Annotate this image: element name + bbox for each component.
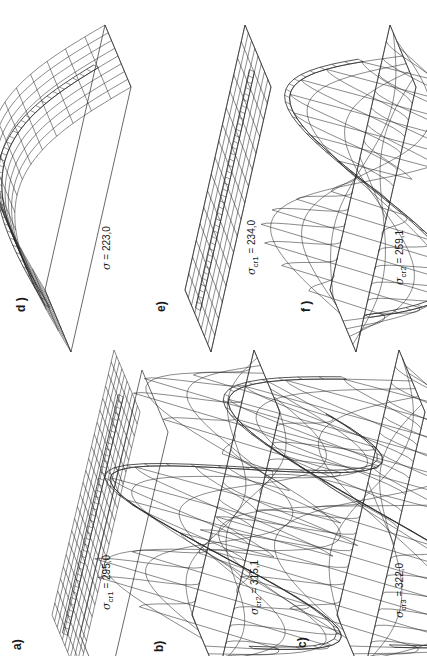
stiffener-hatch xyxy=(79,561,84,563)
stiffener-hatch xyxy=(233,141,238,143)
stiffener-hatch xyxy=(87,69,92,71)
stiffener-hatch xyxy=(41,101,46,103)
stiffener-hatch xyxy=(208,254,213,256)
stiffener-hatch xyxy=(204,272,209,274)
mesh-line-transverse xyxy=(290,91,427,153)
stiffener-hatch xyxy=(271,583,276,585)
mode-shape-panel-f: f ) σcr2 = 259,1 xyxy=(285,0,427,320)
stiffener-hatch xyxy=(21,120,26,122)
wireframe-mesh xyxy=(0,320,140,656)
sigma-subscript: cr2 xyxy=(399,266,408,277)
stiffener-hatch xyxy=(201,284,206,286)
sigma-symbol: σ xyxy=(245,267,258,275)
mesh-line-transverse xyxy=(326,58,427,120)
stiffener-hatch xyxy=(229,159,234,161)
stiffener-hatch xyxy=(417,305,422,307)
stiffener-hatch xyxy=(320,67,325,69)
stiffener-hatch xyxy=(342,491,347,493)
stiffener-hatch xyxy=(195,308,200,310)
stiffener-hatch xyxy=(248,76,253,78)
stiffener-hatch xyxy=(107,442,112,444)
stiffener-hatch xyxy=(332,64,337,66)
stiffener-hatch xyxy=(213,231,218,233)
stiffener-base xyxy=(2,67,99,307)
sigma-subscript: cr2 xyxy=(254,596,263,607)
mesh-line-transverse xyxy=(337,615,363,656)
stiffener-hatch xyxy=(240,111,245,113)
stiffener-hatch xyxy=(294,79,299,81)
stiffener-hatch xyxy=(289,84,294,86)
stiffener-hatch xyxy=(241,105,246,107)
stress-label: σcr3 = 322,0 xyxy=(393,563,408,618)
stiffener-hatch xyxy=(17,126,22,128)
mode-shape-panel-a: a) σcr1 = 295,0 xyxy=(0,320,140,656)
sigma-subscript: cr1 xyxy=(106,591,115,602)
stiffener-hatch xyxy=(244,93,249,96)
stiffener-hatch xyxy=(222,189,227,191)
mesh-line-longitudinal xyxy=(302,41,427,306)
stiffener-hatch xyxy=(66,83,71,85)
stress-label: σcr2 = 315,1 xyxy=(248,560,263,615)
stress-value: = 234,0 xyxy=(246,220,257,256)
wireframe-mesh xyxy=(140,0,285,320)
stiffener-hatch xyxy=(286,89,291,91)
panel-letter: f ) xyxy=(299,301,313,312)
stiffener-hatch xyxy=(220,201,225,203)
stiffener-hatch xyxy=(10,136,15,138)
mesh-line-transverse xyxy=(270,446,427,511)
stiffener-hatch xyxy=(222,556,227,558)
mesh-line-longitudinal xyxy=(0,25,105,290)
stiffener-hatch xyxy=(202,278,207,280)
stiffener-hatch xyxy=(206,260,211,262)
stiffener-hatch xyxy=(408,529,413,531)
mesh-line-transverse xyxy=(301,75,427,137)
stiffener-top xyxy=(0,65,94,305)
stiffener-hatch xyxy=(236,129,241,131)
sigma-symbol: σ xyxy=(100,262,113,270)
stiffener-hatch xyxy=(212,236,217,238)
stress-label: σcr1 = 295,0 xyxy=(100,555,115,610)
stress-value: = 223,0 xyxy=(101,226,112,262)
panel-letter: c) xyxy=(295,637,309,648)
stiffener-hatch xyxy=(2,153,7,155)
stiffener-hatch xyxy=(64,627,69,629)
mode-shape-panel-c: c) σcr3 = 322,0 xyxy=(285,320,427,656)
stiffener-hatch xyxy=(227,171,232,173)
stiffener-hatch xyxy=(102,466,107,468)
stiffener-hatch xyxy=(237,123,242,125)
mode-shape-panel-b: b) σcr2 = 315,1 xyxy=(140,320,285,656)
stress-label: σ = 223,0 xyxy=(100,226,115,270)
mesh-line-longitudinal xyxy=(360,404,422,656)
stiffener-hatch xyxy=(30,110,35,112)
stiffener-hatch xyxy=(36,106,41,108)
stiffener-hatch xyxy=(345,62,350,64)
stiffener-hatch xyxy=(285,95,290,97)
sigma-symbol: σ xyxy=(393,610,406,618)
wireframe-mesh xyxy=(140,320,285,656)
stiffener-hatch xyxy=(358,59,363,61)
mesh-line-transverse xyxy=(192,615,218,656)
mode-shape-panel-d: d ) σ = 223,0 xyxy=(0,0,140,320)
stiffener-hatch xyxy=(173,529,178,531)
stiffener-hatch xyxy=(85,538,90,540)
stiffener-hatch xyxy=(406,308,411,310)
stress-label: σcr1 = 234,0 xyxy=(245,220,260,275)
mesh-line-transverse xyxy=(331,174,407,236)
mesh-line-transverse xyxy=(344,367,427,429)
stiffener-hatch xyxy=(59,87,64,89)
stiffener-hatch xyxy=(74,585,79,587)
stiffener-hatch xyxy=(310,71,315,73)
mesh-line-longitudinal xyxy=(70,393,132,656)
stiffener-hatch xyxy=(110,430,115,432)
mesh-line-longitudinal xyxy=(218,412,280,656)
mesh-line-longitudinal xyxy=(0,41,111,306)
panel-letter: e) xyxy=(154,301,168,312)
sigma-symbol: σ xyxy=(393,277,406,285)
stiffener-hatch xyxy=(225,177,230,179)
panel-letter: a) xyxy=(10,639,24,650)
stiffener-hatch xyxy=(386,517,391,519)
sigma-subscript: cr3 xyxy=(399,599,408,610)
stiffener-hatch xyxy=(73,78,78,80)
stiffener-hatch xyxy=(0,171,3,173)
stiffener-hatch xyxy=(210,242,215,244)
